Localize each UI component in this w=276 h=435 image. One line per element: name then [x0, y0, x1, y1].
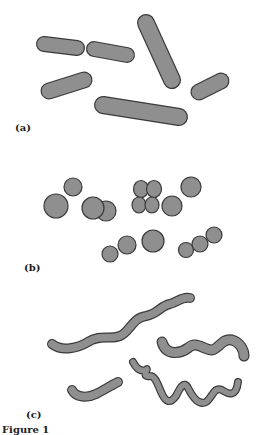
rod-1: [44, 44, 77, 48]
panel-b-label: (b): [24, 262, 40, 273]
coccus: [206, 227, 222, 243]
coccus: [181, 177, 201, 197]
coccus: [162, 196, 182, 216]
coccus: [179, 243, 194, 258]
coccus: [82, 197, 104, 219]
panel-c-label: (c): [26, 409, 42, 420]
tetrad: [132, 181, 162, 214]
rod-2: [94, 49, 127, 55]
coccus: [64, 178, 82, 196]
rod-6: [103, 105, 179, 117]
spiral-1: [52, 298, 190, 349]
rod-5: [199, 81, 221, 92]
coccus: [192, 236, 208, 252]
figure-caption: Figure 1: [2, 424, 49, 435]
rod-4: [49, 80, 84, 91]
spiral-4: [133, 362, 238, 403]
spiral-3: [72, 382, 118, 397]
spiral-2: [162, 340, 244, 356]
coccus: [44, 194, 68, 218]
panel-a-rods: [44, 23, 221, 117]
panel-a-label: (a): [15, 122, 31, 133]
coccus: [142, 230, 164, 252]
coccus: [118, 236, 136, 254]
coccus: [102, 246, 118, 262]
panel-b-cocci: [44, 177, 222, 262]
panel-c-spirals: [52, 298, 244, 403]
rod-3: [146, 23, 172, 80]
